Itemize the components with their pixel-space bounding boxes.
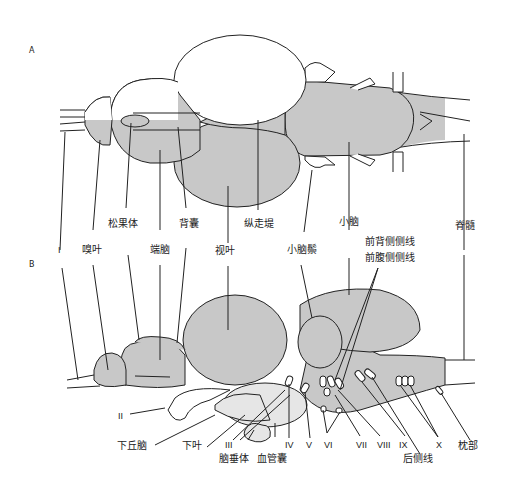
label-torus-longitudinalis: 纵走堤: [244, 218, 274, 230]
label-posterior-lateral-line: 后侧线: [403, 453, 433, 465]
label-nerve-X: X: [436, 439, 442, 451]
label-nerve-I: I: [58, 244, 61, 256]
panel-label-a: A: [29, 46, 34, 55]
label-nerve-III: III: [225, 439, 233, 451]
label-anteroventral-lateral-line: 前腹侧侧线: [365, 252, 415, 264]
panel-label-b: B: [29, 260, 35, 269]
label-valvula: 小脑鬃: [287, 244, 317, 256]
label-nerve-VII: VII: [356, 439, 367, 451]
label-hypothalamus: 下丘脑: [117, 440, 147, 452]
telencephalon-b: [121, 342, 185, 388]
label-nerve-IV: IV: [285, 439, 294, 451]
label-pineal: 松果体: [108, 218, 138, 230]
label-anterodorsal-lateral-line: 前背侧侧线: [365, 236, 415, 248]
olfactory-bulb-b: [94, 353, 126, 387]
label-pituitary: 脑垂体: [219, 453, 249, 465]
label-nerve-V: V: [306, 439, 312, 451]
label-optic-tectum: 视叶: [215, 245, 235, 257]
label-saccus-vasculosus: 血管囊: [257, 453, 287, 465]
optic-tectum-b: [183, 295, 287, 385]
label-nerve-VI: VI: [324, 439, 333, 451]
label-spinal-cord: 脊髓: [455, 220, 475, 232]
label-nerve-IX: IX: [399, 439, 408, 451]
label-inferior-lobe: 下叶: [182, 440, 202, 452]
label-nerve-II: II: [118, 410, 123, 422]
label-nerve-VIII: VIII: [377, 439, 391, 451]
brain-diagram: [0, 0, 507, 493]
label-telencephalon: 端脑: [150, 244, 170, 256]
label-olfactory-bulb: 嗅叶: [82, 244, 102, 256]
label-cerebellum: 小脑: [339, 216, 359, 228]
label-dorsal-sac: 背囊: [179, 218, 199, 230]
label-occipital: 枕部: [458, 440, 478, 452]
